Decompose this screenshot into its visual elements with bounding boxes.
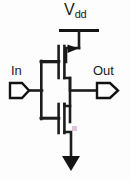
input-label: In <box>11 64 22 77</box>
circuit-schematic: Vdd In Out <box>0 0 131 179</box>
pmos-arrow-icon <box>68 45 79 54</box>
schematic-canvas <box>0 0 131 179</box>
input-port-marker[interactable] <box>10 83 29 98</box>
ground-arrow-icon <box>62 156 80 171</box>
vdd-label-main: V <box>64 1 75 18</box>
nmos-source-wire <box>65 132 72 155</box>
output-port-marker[interactable] <box>97 83 118 98</box>
vdd-label-subscript: dd <box>75 8 87 20</box>
output-label: Out <box>93 64 114 77</box>
compression-artifact <box>72 126 77 131</box>
vdd-label: Vdd <box>64 2 86 18</box>
